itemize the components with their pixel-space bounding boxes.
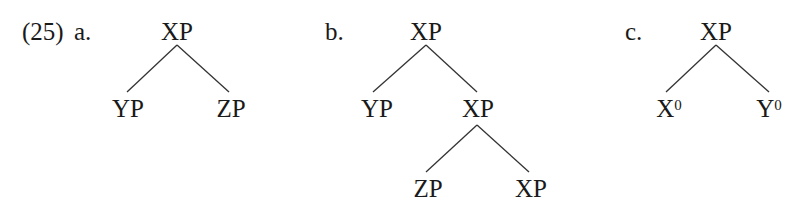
branch-b-right	[426, 45, 477, 92]
branch-a-right	[177, 45, 229, 92]
head-x-sup: 0	[674, 97, 682, 113]
tree-b-sub-right-child: XP	[515, 176, 547, 201]
head-y-sup: 0	[774, 97, 782, 113]
tree-c-label: c.	[625, 19, 642, 44]
tree-a-right-child: ZP	[216, 96, 245, 121]
branch-c-right	[716, 45, 769, 92]
example-number: (25)	[22, 19, 64, 44]
branch-b-sub-right	[477, 125, 529, 172]
tree-b-right-child: XP	[462, 96, 494, 121]
tree-c-right-child: Y0	[756, 96, 782, 121]
tree-a-root: XP	[161, 19, 193, 44]
head-y-base: Y	[756, 95, 774, 122]
branch-b-left	[373, 45, 426, 92]
tree-a-left-child: YP	[112, 96, 144, 121]
branch-a-left	[127, 45, 177, 92]
branch-c-left	[666, 45, 716, 92]
tree-c-left-child: X0	[656, 96, 682, 121]
tree-a-label: a.	[74, 19, 91, 44]
tree-b-left-child: YP	[361, 96, 393, 121]
branch-b-sub-left	[426, 125, 477, 172]
tree-b-label: b.	[325, 19, 344, 44]
tree-b-root: XP	[410, 19, 442, 44]
head-x-base: X	[656, 95, 674, 122]
tree-c-root: XP	[700, 19, 732, 44]
tree-b-sub-left-child: ZP	[413, 176, 442, 201]
